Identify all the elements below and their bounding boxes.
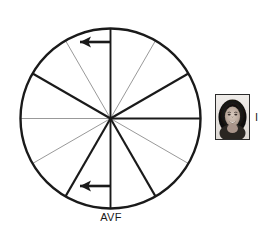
spoke-210deg <box>33 119 111 164</box>
spoke-300deg <box>111 119 156 197</box>
spoke-30deg <box>111 74 189 119</box>
portrait-image <box>216 95 249 139</box>
spoke-150deg <box>33 74 111 119</box>
spoke-120deg <box>66 41 111 119</box>
spoke-330deg <box>111 119 189 164</box>
lead-i-axis-label: I <box>255 112 258 123</box>
patient-portrait <box>215 94 250 140</box>
hexaxial-figure: AVF I <box>0 0 267 235</box>
spoke-60deg <box>111 41 156 119</box>
upper-left-arrow-icon <box>80 36 111 47</box>
lower-left-arrow-icon <box>80 180 111 191</box>
avf-axis-label: AVF <box>0 212 222 223</box>
